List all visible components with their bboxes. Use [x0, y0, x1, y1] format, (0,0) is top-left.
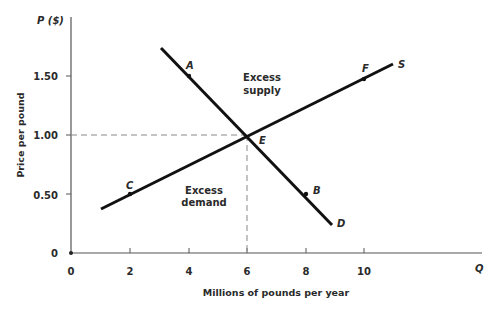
- x-tick-label-10: 10: [357, 266, 371, 277]
- x-tick-label-8: 8: [303, 266, 310, 277]
- x-tick-label-0: 0: [68, 266, 75, 277]
- point-e-label: E: [259, 135, 266, 146]
- point-f-dot: [362, 77, 366, 81]
- excess-supply-label-line1: Excess: [243, 72, 281, 83]
- x-axis-title: Millions of pounds per year: [203, 287, 350, 298]
- y-axis-symbol: P ($): [37, 15, 64, 26]
- origin-dot: [69, 251, 73, 255]
- excess-demand-label-line2: demand: [181, 197, 226, 208]
- y-tick-label-150: 1.50: [33, 71, 58, 82]
- point-a-label: A: [185, 60, 194, 71]
- y-tick-label-0: 0: [51, 248, 58, 259]
- supply-curve-label: S: [398, 59, 405, 70]
- x-axis-symbol: Q: [475, 263, 484, 274]
- x-tick-label-6: 6: [244, 266, 251, 277]
- excess-supply-label-line2: supply: [243, 85, 281, 96]
- supply-demand-chart: A B C E F S D Excess supply Excess deman…: [0, 0, 498, 310]
- y-tick-label-050: 0.50: [33, 190, 58, 201]
- point-b-dot: [304, 192, 308, 196]
- point-c-dot: [128, 192, 132, 196]
- x-tick-label-2: 2: [127, 266, 134, 277]
- demand-curve-label: D: [337, 218, 345, 229]
- point-a-dot: [187, 74, 191, 78]
- y-tick-label-100: 1.00: [33, 130, 58, 141]
- excess-demand-label-line1: Excess: [185, 185, 223, 196]
- x-tick-label-4: 4: [186, 266, 193, 277]
- point-b-label: B: [313, 185, 321, 196]
- point-f-label: F: [362, 63, 369, 74]
- y-axis-title: Price per pound: [15, 92, 26, 177]
- point-c-label: C: [126, 180, 134, 191]
